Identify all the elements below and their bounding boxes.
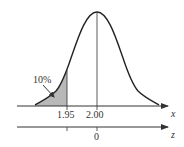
shaded-area-label: 10% (33, 74, 51, 85)
z-axis-label: z (170, 129, 175, 140)
cutoff-x-label: 1.95 (57, 109, 75, 120)
area-pointer-arrow (43, 85, 54, 97)
mean-z-label: 0 (94, 131, 99, 142)
mean-x-label: 2.00 (86, 109, 104, 120)
x-axis-label: x (170, 108, 176, 119)
normal-curve-diagram: x 1.95 2.00 z 0 10% (0, 0, 184, 147)
